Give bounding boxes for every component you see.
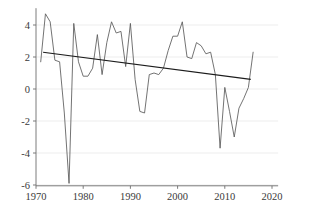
chart-container: -6-4-2024 197019801990200020102020: [0, 0, 312, 217]
x-tick-label: 1980: [73, 191, 94, 202]
y-tick-label: 2: [25, 52, 30, 63]
gridlines: [36, 25, 278, 185]
x-tick-label: 2020: [262, 191, 283, 202]
y-tick-label: 4: [25, 20, 31, 31]
data-series-linear-trend: [43, 52, 251, 79]
x-tick-label: 1970: [26, 191, 47, 202]
y-axis-ticks: -6-4-2024: [21, 20, 36, 191]
y-tick-label: -4: [21, 148, 30, 159]
y-tick-label: -2: [21, 116, 30, 127]
x-axis-ticks: 197019801990200020102020: [26, 186, 283, 203]
x-tick-label: 1990: [120, 191, 141, 202]
x-tick-label: 2010: [214, 191, 235, 202]
y-tick-label: -6: [21, 180, 30, 191]
data-series-observed: [41, 14, 253, 184]
line-chart: -6-4-2024 197019801990200020102020: [0, 0, 312, 217]
x-tick-label: 2000: [167, 191, 188, 202]
y-tick-label: 0: [25, 84, 30, 95]
